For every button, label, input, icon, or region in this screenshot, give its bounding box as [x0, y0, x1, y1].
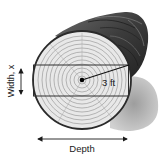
radius-label: 3 ft [102, 77, 116, 88]
depth-label: Depth [69, 143, 94, 154]
center-point [80, 78, 85, 83]
width-label: Width, x [6, 64, 16, 97]
log-beam-diagram: 3 ft Width, x Depth [0, 0, 167, 161]
